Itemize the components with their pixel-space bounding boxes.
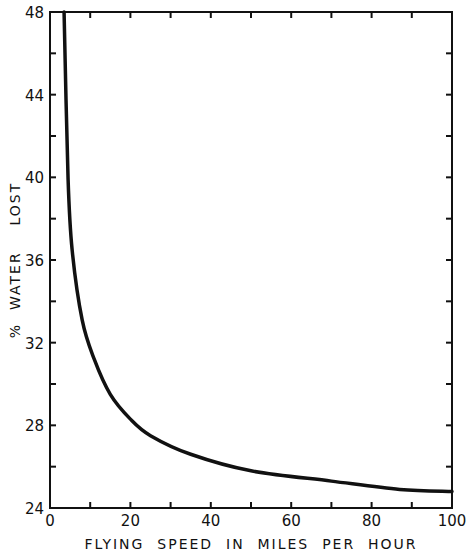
x-tick-label: 40 [201,512,220,530]
y-tick-label: 28 [25,417,44,435]
x-tick-label: 100 [438,512,467,530]
x-tick-label: 80 [362,512,381,530]
y-tick-label: 48 [25,4,44,22]
axis-ticks [50,12,452,508]
axis-tick-labels: 02040608010024283236404448 [25,4,466,530]
y-tick-label: 36 [25,252,44,270]
chart: 02040608010024283236404448 FLYING SPEED … [0,0,467,556]
x-tick-label: 0 [45,512,55,530]
y-tick-label: 40 [25,169,44,187]
y-tick-label: 32 [25,335,44,353]
y-axis-title: % WATER LOST [7,182,23,338]
data-curve [64,12,452,491]
x-tick-label: 20 [121,512,140,530]
x-axis-title: FLYING SPEED IN MILES PER HOUR [84,536,417,552]
x-tick-label: 60 [282,512,301,530]
y-tick-label: 24 [25,500,44,518]
y-tick-label: 44 [25,87,44,105]
plot-frame [50,12,452,508]
